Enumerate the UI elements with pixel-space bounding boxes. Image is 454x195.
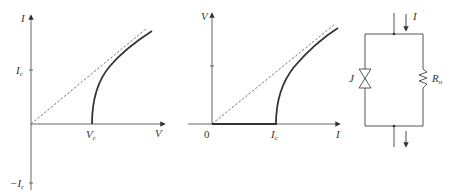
resistor-label: Rn [431, 72, 443, 86]
junction-label: J [349, 72, 355, 84]
ohmic-dashed-line [31, 28, 147, 124]
iv-curve [92, 31, 152, 124]
origin-label: 0 [204, 128, 210, 140]
iv-curve [212, 28, 338, 124]
x-axis-label: I [335, 128, 341, 140]
figure: I V Ic −Ic Vc V I 0 Ic I J Rn [0, 0, 454, 195]
vc-label: Vc [86, 128, 97, 142]
y-axis-label: I [20, 12, 26, 24]
bottom-node [393, 125, 396, 128]
ic-label: Ic [270, 128, 279, 142]
ohmic-dashed-line [212, 24, 335, 124]
resistor-symbol [419, 69, 427, 88]
ic-label: Ic [15, 64, 24, 78]
panel-circuit [359, 13, 427, 147]
y-axis-label: V [201, 10, 209, 22]
current-label: I [412, 10, 418, 22]
panel-iv-vs-voltage: I V Ic −Ic Vc [10, 12, 163, 191]
panel-iv-vs-current: V I 0 Ic [188, 10, 341, 142]
top-node [393, 33, 396, 36]
neg-ic-label: −Ic [10, 177, 25, 191]
junction-symbol [359, 69, 371, 88]
x-axis-label: V [155, 127, 163, 139]
